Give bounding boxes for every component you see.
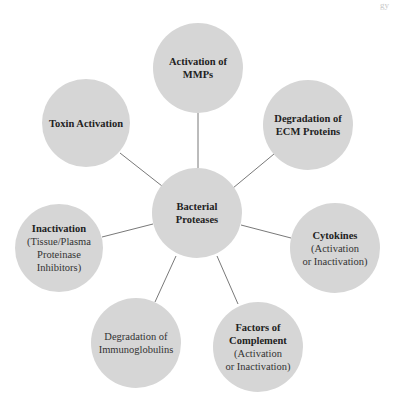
node-toxin-activation: Toxin Activation [42,79,130,167]
complement-sub-line2: or Inactivation) [225,360,290,373]
connector-complement [217,256,238,304]
node-factors-of-complement: Factors of Complement (Activation or Ina… [213,302,303,392]
inactivation-sub-line2: Proteinase [27,248,91,261]
complement-title-line1: Factors of [225,321,290,334]
node-degradation-of-ecm-proteins: Degradation of ECM Proteins [263,80,353,170]
node-cytokines: Cytokines (Activation or Inactivation) [290,203,380,293]
node-bacterial-proteases: Bacterial Proteases [152,168,242,258]
cytokines-sub-line1: (Activation [302,242,367,255]
ecm-title-line2: ECM Proteins [274,125,341,138]
connector-inactivation [102,224,153,237]
connector-immunoglobulins [155,256,176,302]
connector-cytokines [241,225,291,238]
inactivation-title: Inactivation [27,222,91,235]
complement-sub-line1: (Activation [225,347,290,360]
cytokines-title: Cytokines [302,229,367,242]
center-title-line2: Proteases [176,213,218,226]
bacterial-proteases-diagram: gy Bacterial Proteases Activation of MMP… [0,0,395,408]
connector-ecm [233,154,274,188]
toxin-title: Toxin Activation [49,117,123,130]
mmps-title-line1: Activation of [169,55,227,68]
center-title-line1: Bacterial [176,200,218,213]
node-inactivation: Inactivation (Tissue/Plasma Proteinase I… [15,204,103,292]
node-degradation-of-immunoglobulins: Degradation of Immunoglobulins [91,298,181,388]
immunoglobulins-line2: Immunoglobulins [99,343,174,356]
node-activation-of-mmps: Activation of MMPs [153,23,243,113]
inactivation-sub-line3: Inhibitors) [27,261,91,274]
complement-title-line2: Complement [225,334,290,347]
immunoglobulins-line1: Degradation of [99,330,174,343]
inactivation-sub-line1: (Tissue/Plasma [27,235,91,248]
cytokines-sub-line2: or Inactivation) [302,255,367,268]
ecm-title-line1: Degradation of [274,112,341,125]
connector-toxin [120,153,162,186]
mmps-title-line2: MMPs [169,68,227,81]
